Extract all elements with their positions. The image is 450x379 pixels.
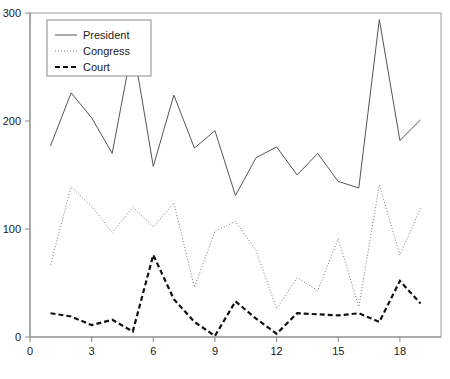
legend-label-court: Court <box>83 61 110 73</box>
chart-legend: PresidentCongressCourt <box>47 20 151 76</box>
series-line-congress <box>51 185 421 309</box>
line-chart: 0100200300 0369121518 PresidentCongressC… <box>0 0 450 379</box>
legend-label-president: President <box>83 29 129 41</box>
y-tick-label: 200 <box>3 115 21 127</box>
x-axis: 0369121518 <box>27 337 441 357</box>
y-tick-label: 300 <box>3 7 21 19</box>
legend-label-congress: Congress <box>83 45 131 57</box>
x-tick-label: 18 <box>394 345 406 357</box>
x-tick-label: 15 <box>332 345 344 357</box>
y-tick-label: 0 <box>15 331 21 343</box>
x-tick-label: 3 <box>89 345 95 357</box>
x-tick-label: 12 <box>270 345 282 357</box>
y-tick-label: 100 <box>3 223 21 235</box>
x-tick-label: 0 <box>27 345 33 357</box>
y-axis: 0100200300 <box>3 7 30 343</box>
chart-container: 0100200300 0369121518 PresidentCongressC… <box>0 0 450 379</box>
series-line-court <box>51 255 421 336</box>
x-tick-label: 9 <box>212 345 218 357</box>
x-tick-label: 6 <box>150 345 156 357</box>
